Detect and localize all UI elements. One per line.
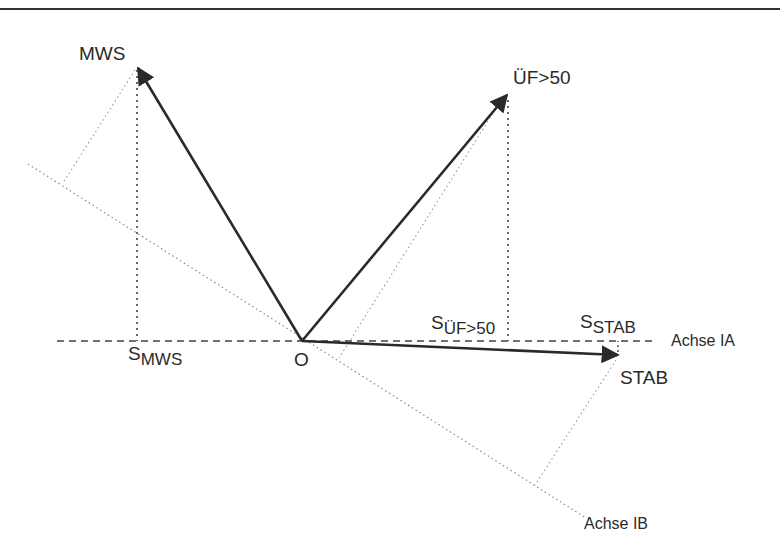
projection-mws-ib xyxy=(63,70,135,183)
projection-base: S xyxy=(128,343,141,364)
projection-base: S xyxy=(431,312,444,333)
diagram-canvas xyxy=(0,0,780,558)
vector-mws-arrow xyxy=(138,68,302,341)
vector-mws-label: MWS xyxy=(79,44,125,63)
projection-stab-ib xyxy=(535,360,616,485)
projection-base: S xyxy=(580,311,593,332)
projection-label-mws: SMWS xyxy=(128,344,182,363)
projection-subscript: ÜF>50 xyxy=(444,319,496,338)
projection-subscript: STAB xyxy=(593,318,636,337)
vector-stab-label: STAB xyxy=(620,368,668,387)
origin-label: O xyxy=(294,350,309,369)
projection-label-stab: SSTAB xyxy=(580,312,636,331)
axis-ia-label: Achse IA xyxy=(671,333,735,349)
projection-label-uef50: SÜF>50 xyxy=(431,313,495,332)
vector-uef50-arrow xyxy=(302,95,507,341)
vector-stab-arrow xyxy=(302,341,618,355)
projection-subscript: MWS xyxy=(141,350,183,369)
vector-uef50-label: ÜF>50 xyxy=(513,68,571,87)
axis-ib-label: Achse IB xyxy=(584,516,648,532)
